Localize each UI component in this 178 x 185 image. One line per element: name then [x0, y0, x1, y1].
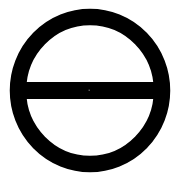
symbol-canvas [0, 0, 178, 185]
center-dot [89, 90, 91, 92]
circle-bar-symbol-icon [0, 0, 178, 185]
